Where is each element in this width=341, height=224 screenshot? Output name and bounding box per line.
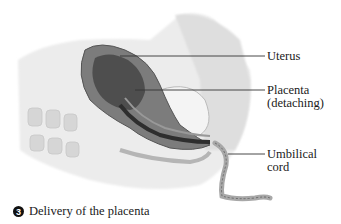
umbilical-cord [215,143,270,199]
label-placenta-line2: (detaching) [267,97,324,110]
label-uterus-text: Uterus [267,50,300,63]
figure-caption: 3 Delivery of the placenta [13,204,149,219]
anatomy-drawing [0,0,341,224]
label-umbilical-line2: cord [267,161,317,174]
caption-text: Delivery of the placenta [29,204,149,219]
step-number-badge: 3 [13,206,24,217]
placenta-delivery-illustration: Uterus Placenta (detaching) Umbilical co… [0,0,341,224]
label-uterus: Uterus [267,50,300,63]
label-umbilical-cord: Umbilical cord [267,148,317,174]
label-placenta: Placenta (detaching) [267,84,324,110]
